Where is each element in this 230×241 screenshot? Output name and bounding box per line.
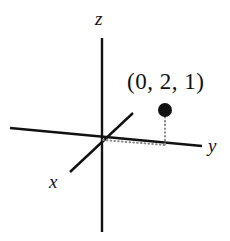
x-axis-label: x (49, 172, 57, 191)
point-marker-dot (158, 103, 172, 117)
axes-drawing (0, 0, 230, 241)
z-axis-label: z (95, 9, 102, 28)
point-coordinate-label: (0, 2, 1) (127, 70, 204, 93)
y-axis-label: y (208, 136, 216, 155)
coordinate-axes-diagram: z y x (0, 2, 1) (0, 0, 230, 241)
